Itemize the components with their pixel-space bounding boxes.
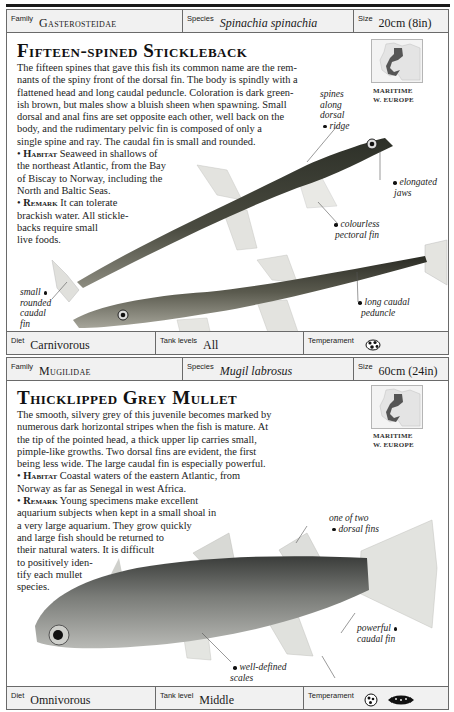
annotation-dorsal-spines: spines along dorsal ridge [320, 89, 350, 131]
bullet-dot [44, 291, 48, 295]
annotation-line: peduncle [355, 308, 410, 319]
annotation-line: fin [20, 319, 51, 330]
diet-label: Diet [11, 691, 24, 700]
bullet-dot [334, 223, 338, 227]
annotation-line: pectoral fin [331, 230, 380, 241]
bullet-dot [323, 125, 327, 129]
diet-value: Carnivorous [30, 338, 89, 352]
annotation-caudal-fin: powerful caudal fin [357, 623, 400, 644]
annotation-line: jaws [390, 188, 437, 199]
annotation-caudal-peduncle: long caudal peduncle [355, 297, 410, 318]
annotation-line: ridge [330, 121, 350, 131]
annotation-line: spines [320, 89, 350, 100]
temperament-cell: Temperament [304, 687, 448, 709]
bullet-dot [233, 666, 237, 670]
annotation-line: caudal [20, 308, 51, 319]
bullet-dot [332, 528, 336, 532]
diet-cell: Diet Omnivorous [7, 687, 156, 709]
annotation-line: powerful [357, 623, 391, 633]
diet-value: Omnivorous [30, 693, 90, 707]
aggressive-fish-icon [364, 339, 382, 351]
tank-cell: Tank levels All [156, 332, 304, 354]
temperament-label: Temperament [308, 691, 354, 700]
annotation-line: well-defined [240, 662, 287, 672]
peaceful-fish-icon [364, 693, 378, 707]
species-card-stickleback: Family Gasterosteidae Species Spinachia … [6, 9, 449, 355]
annotation-line: scales [230, 673, 286, 684]
temperament-label: Temperament [308, 336, 354, 345]
annotation-line: dorsal [320, 110, 350, 121]
annotation-line: long caudal [365, 297, 410, 307]
annotation-scales: well-defined scales [230, 662, 286, 683]
annotation-line: colourless [341, 219, 380, 229]
annotation-line: dorsal fins [339, 524, 379, 534]
tank-label: Tank level [160, 691, 193, 700]
bullet-dot [358, 301, 362, 305]
diet-cell: Diet Carnivorous [7, 332, 156, 354]
annotation-pectoral-fin: colourless pectoral fin [331, 219, 380, 240]
bullet-dot [394, 627, 398, 631]
annotation-caudal-fin: small rounded caudal fin [20, 287, 51, 329]
page-top-rule [6, 4, 450, 7]
annotation-jaws: elongated jaws [390, 177, 437, 198]
annotation-dorsal-fins: one of two dorsal fins [329, 513, 379, 534]
card-footer-row: Diet Omnivorous Tank level Middle Temper… [7, 686, 448, 709]
tank-label: Tank levels [160, 336, 197, 345]
annotation-line: caudal fin [357, 634, 400, 645]
annotation-line: elongated [400, 177, 437, 187]
annotation-line: small [20, 287, 41, 297]
diet-label: Diet [11, 336, 24, 345]
annotation-line: one of two [329, 513, 379, 524]
annotation-line: rounded [20, 298, 51, 309]
card-footer-row: Diet Carnivorous Tank levels All Tempera… [7, 331, 448, 354]
annotation-line: along [320, 100, 350, 111]
schooling-fish-icon [388, 694, 414, 706]
bullet-dot [393, 181, 397, 185]
mullet-illustration [7, 358, 448, 709]
species-card-grey-mullet: Family Mugilidae Species Mugil labrosus … [6, 357, 449, 710]
tank-value: All [203, 338, 218, 352]
temperament-cell: Temperament [304, 332, 448, 354]
tank-cell: Tank level Middle [156, 687, 304, 709]
tank-value: Middle [199, 693, 234, 707]
